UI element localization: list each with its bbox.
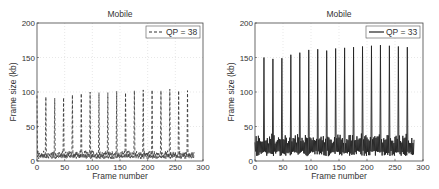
svg-text:0: 0 xyxy=(249,157,254,166)
chart-title: Mobile xyxy=(107,9,132,19)
svg-text:300: 300 xyxy=(196,163,210,172)
x-axis-label: Frame number xyxy=(311,171,367,181)
legend: QP = 33 xyxy=(366,26,420,38)
series-line xyxy=(255,45,414,156)
chart-left-qp38: QP = 38050100150200250300050100150200Mob… xyxy=(0,0,220,189)
svg-text:150: 150 xyxy=(240,54,254,63)
svg-text:50: 50 xyxy=(279,163,288,172)
svg-text:50: 50 xyxy=(26,123,35,132)
svg-text:0: 0 xyxy=(253,163,258,172)
svg-text:200: 200 xyxy=(22,19,36,28)
chart-left-svg: QP = 38050100150200250300050100150200Mob… xyxy=(0,0,220,189)
x-axis-label: Frame number xyxy=(92,171,148,181)
svg-text:250: 250 xyxy=(169,163,183,172)
y-axis-label: Frame size (kb) xyxy=(226,62,236,121)
svg-text:250: 250 xyxy=(388,163,402,172)
chart-right-svg: QP = 33050100150200250300050100150200Mob… xyxy=(218,0,439,189)
svg-text:200: 200 xyxy=(240,19,254,28)
chart-right-qp33: QP = 33050100150200250300050100150200Mob… xyxy=(218,0,439,189)
svg-text:0: 0 xyxy=(35,163,40,172)
svg-text:50: 50 xyxy=(244,123,253,132)
legend: QP = 38 xyxy=(146,26,200,38)
svg-text:150: 150 xyxy=(22,54,36,63)
svg-text:100: 100 xyxy=(22,88,36,97)
y-axis-label: Frame size (kb) xyxy=(8,62,18,121)
svg-text:0: 0 xyxy=(31,157,36,166)
svg-text:100: 100 xyxy=(240,88,254,97)
chart-title: Mobile xyxy=(326,9,351,19)
legend-label: QP = 38 xyxy=(166,27,198,37)
svg-text:50: 50 xyxy=(60,163,69,172)
tick-labels: 050100150200250300050100150200 xyxy=(22,19,211,172)
series-line xyxy=(37,89,194,159)
svg-text:300: 300 xyxy=(416,163,430,172)
legend-label: QP = 33 xyxy=(386,27,418,37)
grid-lines xyxy=(37,23,203,161)
